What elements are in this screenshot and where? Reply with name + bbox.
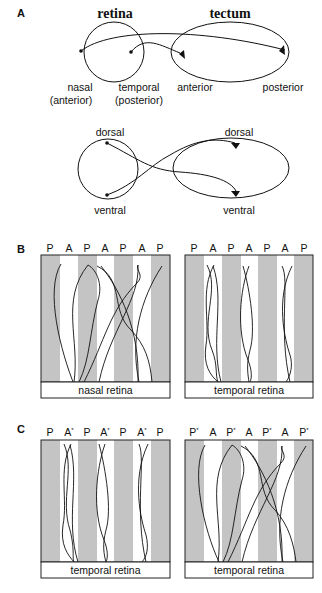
frame-c-right: [185, 440, 313, 562]
figure-canvas: A retina tectum nasal (anterior) tempora…: [0, 0, 322, 593]
stripe-p: [114, 255, 133, 382]
col-label: A: [138, 242, 145, 254]
panel-a: A retina tectum nasal (anterior) tempora…: [17, 6, 304, 216]
col-label: P*: [299, 426, 309, 438]
col-label: P: [190, 242, 197, 254]
axon: [97, 444, 108, 562]
axon: [139, 444, 146, 562]
stripe: [41, 440, 60, 562]
caption-c-right: temporal retina: [214, 564, 284, 576]
retina-circle-top: [84, 22, 144, 82]
col-label: P: [263, 242, 270, 254]
col-label: A: [209, 426, 216, 438]
col-label: A: [101, 242, 108, 254]
col-label: P*: [226, 426, 236, 438]
col-label: A*: [137, 426, 147, 438]
label-tectum-dorsal: dorsal: [225, 126, 254, 138]
tectum-ellipse-top: [171, 22, 289, 82]
col-label: P: [83, 426, 90, 438]
col-label: P*: [189, 426, 199, 438]
stripe: [222, 440, 241, 562]
label-posterior: posterior: [263, 81, 304, 93]
label-nasal: nasal: [67, 81, 92, 93]
col-label: P: [46, 242, 53, 254]
tectum-ellipse-bottom: [173, 138, 289, 198]
arrowhead-tectum-ventral: [231, 191, 240, 197]
col-label: P: [83, 242, 90, 254]
panel-a-letter: A: [17, 7, 25, 19]
stripe-p: [41, 255, 60, 382]
frame-nasal: [41, 255, 170, 382]
stripe-assay-c-left: [41, 440, 170, 562]
panel-c: C temporal retina P A* P A* P A* P: [17, 423, 313, 578]
retina-dorsal-dot: [105, 141, 109, 145]
stripe-p: [185, 255, 204, 382]
col-label: A: [245, 426, 252, 438]
stripe-p: [151, 255, 170, 382]
stripe-p: [258, 255, 277, 382]
stripe-assay-c-right: [185, 440, 313, 562]
arrowhead-anterior: [179, 50, 185, 59]
col-label: P: [46, 426, 53, 438]
column-labels-b-right: P A P A P A P: [190, 242, 307, 254]
column-labels-c-right: P* A P* A P* A P*: [189, 426, 309, 438]
axon: [213, 266, 221, 382]
nasal-dot: [79, 49, 83, 53]
axon: [138, 444, 148, 562]
retina-circle-bottom: [78, 139, 138, 199]
projection-nasal-to-posterior: [81, 34, 285, 51]
projection-ventral-to-dorsal: [107, 140, 235, 195]
stripe-assay-nasal: [41, 255, 170, 387]
stripe: [114, 440, 133, 562]
tectum-title: tectum: [209, 6, 251, 21]
col-label: P: [300, 242, 307, 254]
col-label: A: [65, 242, 72, 254]
stripe-p: [294, 255, 313, 382]
stripe-p: [222, 255, 241, 382]
axon: [241, 266, 252, 382]
label-tectum-ventral: ventral: [223, 204, 255, 216]
col-label: A*: [64, 426, 74, 438]
label-nasal-anterior: (anterior): [50, 94, 93, 106]
axon: [70, 445, 78, 562]
arrowhead-posterior: [279, 45, 285, 55]
axon: [243, 266, 252, 382]
caption-temporal-retina: temporal retina: [214, 384, 284, 396]
arrowhead-tectum-dorsal: [231, 143, 240, 149]
label-temporal: temporal: [119, 81, 160, 93]
col-label: P: [156, 242, 163, 254]
col-label: P: [227, 242, 234, 254]
projection-dorsal-to-ventral: [107, 143, 236, 191]
label-retina-dorsal: dorsal: [96, 126, 125, 138]
panel-b-letter: B: [17, 243, 25, 255]
column-labels-b-left: P A P A P A P: [46, 242, 163, 254]
caption-c-left: temporal retina: [70, 564, 140, 576]
label-retina-ventral: ventral: [94, 204, 126, 216]
col-label: P: [119, 242, 126, 254]
col-label: A*: [100, 426, 110, 438]
retina-ventral-dot: [105, 193, 109, 197]
temporal-dot: [129, 50, 133, 54]
col-label: P: [119, 426, 126, 438]
stripe: [78, 440, 97, 562]
label-temporal-posterior: (posterior): [115, 94, 163, 106]
col-label: A: [209, 242, 216, 254]
label-anterior: anterior: [177, 81, 213, 93]
stripe: [294, 440, 313, 562]
col-label: A: [281, 426, 288, 438]
axon: [207, 265, 218, 382]
retina-title: retina: [97, 6, 133, 21]
col-label: P*: [262, 426, 272, 438]
caption-nasal-retina: nasal retina: [78, 384, 132, 396]
col-label: P: [156, 426, 163, 438]
stripe-assay-temporal: [185, 255, 313, 382]
stripe: [151, 440, 170, 562]
col-label: A: [281, 242, 288, 254]
col-label: A: [245, 242, 252, 254]
column-labels-c-left: P A* P A* P A* P: [46, 426, 163, 438]
panel-c-letter: C: [17, 423, 25, 435]
panel-b: B nasal retina P A P A P A P: [17, 242, 313, 398]
